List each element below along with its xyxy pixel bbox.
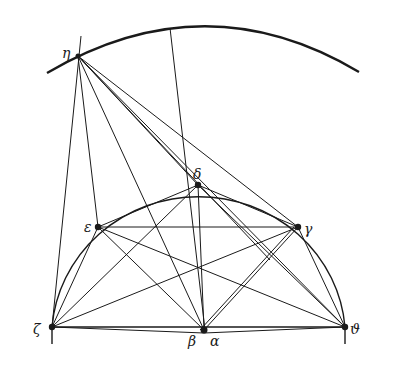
label-epsilon: ε (84, 219, 92, 235)
base-line-lower-right (204, 327, 345, 333)
eta-theta (78, 56, 345, 327)
point-epsilon (95, 224, 101, 230)
point-zeta (49, 324, 55, 330)
label-beta: β (187, 333, 196, 349)
base-line-lower (52, 327, 204, 333)
gamma-theta (298, 227, 345, 327)
label-theta: ϑ (350, 321, 360, 337)
geometric-diagram: η δ ε γ ζ ϑ β α (0, 0, 393, 388)
eta-gamma (78, 56, 298, 227)
point-gamma (295, 224, 301, 230)
point-alpha-beta (201, 327, 208, 334)
gamma-beta (200, 227, 294, 330)
outer-arc (47, 26, 359, 73)
point-theta (342, 324, 348, 330)
label-zeta: ζ (33, 321, 42, 337)
label-alpha: α (210, 333, 220, 349)
gamma-alpha (204, 227, 298, 330)
point-eta (76, 54, 81, 59)
label-gamma: γ (304, 221, 313, 237)
label-eta: η (62, 45, 71, 61)
delta-alpha (198, 185, 204, 330)
zeta-epsilon (52, 227, 98, 327)
semicircle (52, 197, 345, 327)
eta-vertical (52, 36, 81, 327)
eta-outer (78, 56, 270, 260)
zeta-gamma (52, 227, 298, 327)
eta-epsilon (78, 56, 98, 227)
delta-gamma (198, 185, 298, 227)
eta-beta (78, 56, 204, 330)
zeta-delta (52, 185, 198, 327)
epsilon-theta (98, 227, 345, 327)
label-delta: δ (193, 166, 201, 182)
epsilon-delta (98, 185, 198, 227)
epsilon-beta (98, 227, 204, 330)
point-delta (195, 182, 201, 188)
